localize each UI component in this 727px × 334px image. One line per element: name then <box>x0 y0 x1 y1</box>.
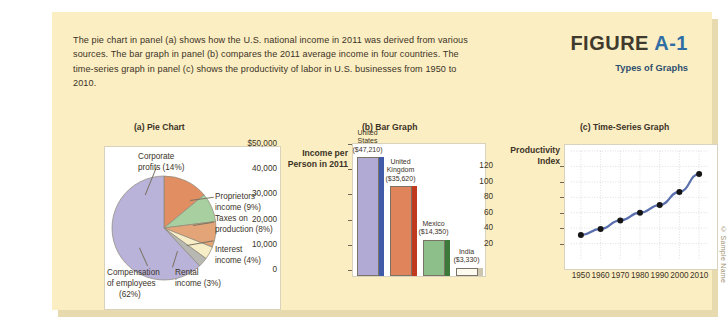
figure-header: FIGURE A-1 Types of Graphs <box>570 32 688 73</box>
timeseries-point <box>657 202 663 208</box>
figure-root: The pie chart in panel (a) shows how the… <box>0 0 727 334</box>
timeseries-line <box>581 174 699 235</box>
bar-label: Mexico($14,350) <box>416 220 452 237</box>
timeseries-x-tick-label: 2000 <box>668 271 690 280</box>
figure-panel: The pie chart in panel (a) shows how the… <box>52 12 712 310</box>
pie-chart <box>110 174 218 282</box>
pie-chart-svg <box>110 174 218 282</box>
timeseries-point <box>617 217 623 223</box>
timeseries-x-tick-label: 1980 <box>629 271 651 280</box>
bar-face <box>456 268 478 276</box>
timeseries-point <box>676 189 682 195</box>
bar-y-tick-label: 20,000 <box>252 215 277 224</box>
bar-top <box>412 186 417 191</box>
timeseries-svg <box>565 145 717 269</box>
bar-y-tick-label: 0 <box>272 265 277 274</box>
bar-y-tick-label: 40,000 <box>252 164 277 173</box>
bar <box>390 186 412 276</box>
timeseries-point <box>637 210 643 216</box>
timeseries-x-tick-label: 2010 <box>688 271 710 280</box>
timeseries-point <box>598 226 604 232</box>
bar-y-tick-label: 10,000 <box>252 240 277 249</box>
timeseries-x-tick-label: 1970 <box>609 271 631 280</box>
pie-label-rental-income: Rental income (3%) <box>175 267 221 289</box>
panel-a-caption: (a) Pie Chart <box>134 122 185 132</box>
figure-subtitle: Types of Graphs <box>570 63 688 73</box>
timeseries-y-tick-label: 40 <box>484 223 493 232</box>
timeseries-y-tick-label: 60 <box>484 208 493 217</box>
figure-intro-text: The pie chart in panel (a) shows how the… <box>73 33 469 90</box>
timeseries-x-tick-label: 1960 <box>590 271 612 280</box>
bar-label: UnitedKingdom($35,620) <box>383 158 419 183</box>
timeseries-y-tick-label: 20 <box>484 239 493 248</box>
timeseries-point <box>696 171 702 177</box>
figure-label-word: FIGURE <box>570 32 649 54</box>
timeseries-y-axis-title: Productivity Index <box>492 145 560 166</box>
bar-top <box>478 268 483 273</box>
bar-top <box>445 240 450 245</box>
bar-face <box>423 240 445 276</box>
copyright-text: © Sample Name <box>720 226 727 283</box>
pie-label-compensation-of-employees: Compensation of employees (62%) <box>107 267 160 300</box>
bar-label: India($3,330) <box>449 248 485 265</box>
timeseries-y-tick-label: 80 <box>484 192 493 201</box>
bar-face <box>357 157 379 276</box>
timeseries-point <box>578 232 584 238</box>
bar <box>456 268 478 276</box>
bar-y-tick-label: 30,000 <box>252 189 277 198</box>
bar-chart-y-axis-title: Income per Person in 2011 <box>280 148 348 169</box>
pie-label-corporate-profits: Corporate profits (14%) <box>138 151 184 173</box>
bar <box>357 157 379 276</box>
figure-label-number: A-1 <box>654 32 688 54</box>
timeseries-y-tick-label: 120 <box>479 161 493 170</box>
bar <box>423 240 445 276</box>
bar-y-tick-label: $50,000 <box>247 139 277 148</box>
timeseries-y-tick-label: 100 <box>479 177 493 186</box>
timeseries-panel <box>564 144 718 270</box>
bar-label: UnitedStates($47,210) <box>350 129 386 154</box>
panel-c-caption: (c) Time-Series Graph <box>580 122 669 132</box>
timeseries-x-tick-label: 1990 <box>649 271 671 280</box>
timeseries-x-tick-label: 1950 <box>570 271 592 280</box>
bar-face <box>390 186 412 276</box>
